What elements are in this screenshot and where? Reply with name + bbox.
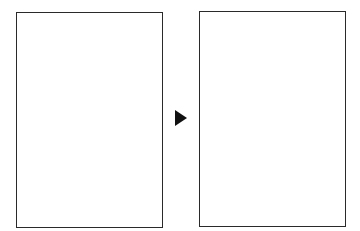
- right-arrow-icon: [175, 110, 187, 126]
- after-page-panel: [199, 11, 346, 227]
- before-page-panel: [16, 12, 163, 228]
